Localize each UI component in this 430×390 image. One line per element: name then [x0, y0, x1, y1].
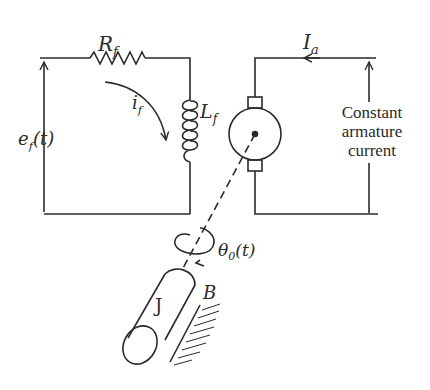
field-circuit	[40, 52, 198, 214]
upper-brush	[248, 97, 262, 108]
inductor-label: Lf	[200, 100, 217, 126]
inertia-label: J	[155, 295, 162, 316]
inertia-load	[116, 269, 195, 370]
armature-current-label: Ia	[303, 30, 319, 57]
angle-label: θ0(t)	[218, 240, 255, 263]
lower-brush	[248, 160, 262, 171]
rotation-arrow-head	[196, 260, 204, 266]
field-top-wire-right	[145, 58, 190, 100]
rotation-arrow	[175, 228, 214, 254]
armature-note: Constant armature current	[322, 103, 422, 160]
inductor-coil	[183, 100, 198, 162]
field-voltage-label: ef(t)	[18, 128, 54, 153]
dc-motor-field-control-diagram: Rf Lf if ef(t) Ia Constant armature curr…	[0, 0, 430, 390]
damping-label: B	[203, 282, 216, 303]
resistor-label: Rf	[98, 32, 118, 59]
armature-top-wire	[255, 58, 376, 97]
field-current-label: if	[132, 92, 142, 117]
circuit-drawing	[0, 0, 430, 390]
armature-lower-wire	[255, 171, 378, 214]
damper-wall	[170, 304, 220, 365]
